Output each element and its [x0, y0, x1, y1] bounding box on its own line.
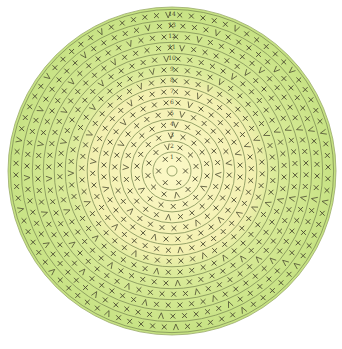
round-label-14: 14: [168, 10, 176, 17]
round-label-2: 2: [170, 142, 174, 149]
round-label-4: 4: [170, 120, 174, 127]
round-label-8: 8: [170, 76, 174, 83]
round-label-10: 10: [168, 54, 176, 61]
round-label-13: 13: [168, 21, 176, 28]
round-label-11: 11: [168, 43, 176, 50]
round-label-7: 7: [170, 87, 174, 94]
round-label-12: 12: [168, 32, 176, 39]
round-label-6: 6: [170, 98, 174, 105]
round-label-3: 3: [170, 131, 174, 138]
crochet-chart: 1234567891011121314: [0, 0, 342, 349]
round-label-9: 9: [170, 65, 174, 72]
round-label-5: 5: [170, 109, 174, 116]
round-label-1: 1: [170, 153, 174, 160]
